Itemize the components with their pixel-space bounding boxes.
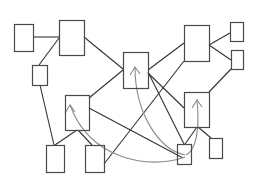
node-E: [185, 26, 210, 62]
node-B: [60, 21, 85, 56]
node-K: [185, 93, 210, 128]
edge-E-F: [209, 33, 230, 45]
node-C: [33, 66, 48, 86]
edge-H-D: [89, 70, 123, 98]
node-I: [47, 146, 65, 173]
edge-B-D: [84, 37, 123, 69]
curved-arrow-M-D: [135, 67, 185, 155]
edge-H-M: [89, 108, 183, 158]
node-F: [231, 23, 244, 42]
edge-C-I: [40, 85, 54, 145]
node-A: [15, 25, 34, 52]
edge-K-L: [198, 127, 211, 138]
edge-D-M: [148, 72, 184, 144]
network-diagram: [0, 0, 264, 182]
node-L: [210, 139, 223, 159]
node-G: [232, 51, 244, 70]
edge-E-G: [209, 45, 231, 60]
edge-D-E: [148, 43, 184, 70]
node-H: [66, 96, 90, 131]
node-J: [86, 146, 105, 173]
edge-H-I: [55, 130, 77, 145]
nodes-layer: [15, 21, 244, 173]
edge-B-C: [39, 38, 59, 65]
edge-G-K: [209, 69, 231, 92]
edge-D-K: [148, 73, 184, 108]
diagram-canvas: [0, 0, 264, 182]
